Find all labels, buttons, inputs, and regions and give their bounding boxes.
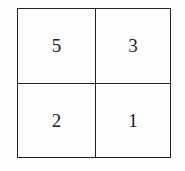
cell-top-right: 3 bbox=[96, 9, 170, 84]
cell-bottom-left: 2 bbox=[18, 84, 96, 157]
cell-bottom-right: 1 bbox=[96, 84, 170, 157]
number-grid: 5 3 2 1 bbox=[17, 8, 171, 158]
cell-top-left: 5 bbox=[18, 9, 96, 84]
